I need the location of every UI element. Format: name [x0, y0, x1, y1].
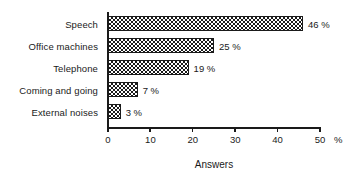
bar-value-label: 7 % — [143, 84, 159, 95]
bar-row: Speech 46 % — [108, 16, 320, 31]
x-axis-tick — [234, 127, 236, 132]
plot-area: Speech 46 % Office machines 25 % Telepho… — [108, 12, 320, 126]
bar-chart: Speech 46 % Office machines 25 % Telepho… — [0, 0, 357, 183]
x-axis-tick — [149, 127, 151, 132]
bar-row: Telephone 19 % — [108, 60, 320, 75]
bar-value-label: 25 % — [219, 40, 241, 51]
bar-row: Coming and going 7 % — [108, 82, 320, 97]
x-axis-tick-label: 40 — [272, 134, 283, 145]
x-axis-tick-label: 20 — [188, 134, 199, 145]
bar-office-machines: 25 % — [108, 38, 214, 53]
x-axis-line — [107, 127, 321, 129]
category-label: External noises — [32, 106, 98, 117]
bar-external-noises: 3 % — [108, 104, 121, 119]
x-axis-tick-label: 10 — [145, 134, 156, 145]
bar-telephone: 19 % — [108, 60, 189, 75]
x-axis-tick — [319, 127, 321, 132]
x-axis-tick-label: 0 — [105, 134, 110, 145]
bar-speech: 46 % — [108, 16, 303, 31]
x-axis-tick-label: 30 — [230, 134, 241, 145]
x-axis-title: Answers — [108, 159, 320, 170]
bar-coming-and-going: 7 % — [108, 82, 138, 97]
x-axis-unit-label: % — [334, 134, 342, 145]
bar-value-label: 19 % — [194, 62, 216, 73]
category-label: Coming and going — [19, 84, 98, 95]
x-axis-tick — [277, 127, 279, 132]
category-label: Office machines — [29, 40, 98, 51]
x-axis-tick — [107, 127, 109, 132]
x-axis-tick-label: 50 — [315, 134, 326, 145]
category-label: Speech — [65, 18, 98, 29]
bar-row: Office machines 25 % — [108, 38, 320, 53]
bar-value-label: 46 % — [308, 18, 330, 29]
x-axis-tick — [192, 127, 194, 132]
category-label: Telephone — [53, 62, 98, 73]
bar-row: External noises 3 % — [108, 104, 320, 119]
bar-value-label: 3 % — [126, 106, 142, 117]
